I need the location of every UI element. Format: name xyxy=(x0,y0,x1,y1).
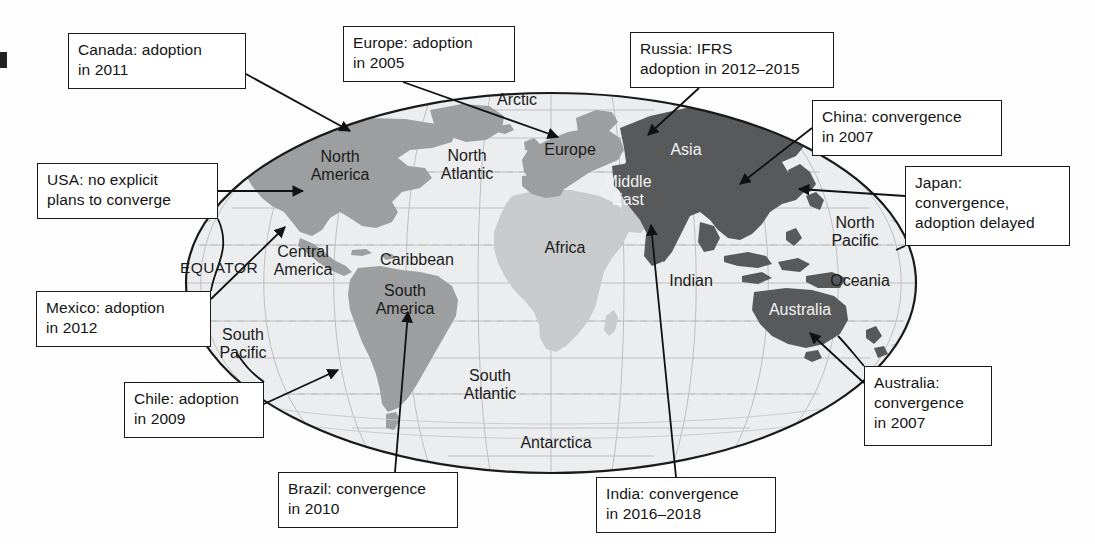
callout-russia[interactable]: Russia: IFRS adoption in 2012–2015 xyxy=(630,32,834,88)
callout-japan[interactable]: Japan: convergence, adoption delayed xyxy=(905,166,1070,246)
leader-canada xyxy=(246,74,350,131)
callout-canada[interactable]: Canada: adoption in 2011 xyxy=(68,33,246,89)
page-binding-mark xyxy=(0,52,7,68)
callout-australia[interactable]: Australia: convergence in 2007 xyxy=(864,366,992,446)
diagram-page: Arctic North America North Atlantic Euro… xyxy=(0,0,1095,544)
callout-usa[interactable]: USA: no explicit plans to converge xyxy=(37,163,218,219)
callout-india[interactable]: India: convergence in 2016–2018 xyxy=(596,477,776,533)
callout-china[interactable]: China: convergence in 2007 xyxy=(812,100,1002,156)
callout-europe[interactable]: Europe: adoption in 2005 xyxy=(343,26,515,82)
callout-chile[interactable]: Chile: adoption in 2009 xyxy=(124,382,264,438)
callout-mexico[interactable]: Mexico: adoption in 2012 xyxy=(36,291,211,347)
callout-brazil[interactable]: Brazil: convergence in 2010 xyxy=(278,472,458,528)
